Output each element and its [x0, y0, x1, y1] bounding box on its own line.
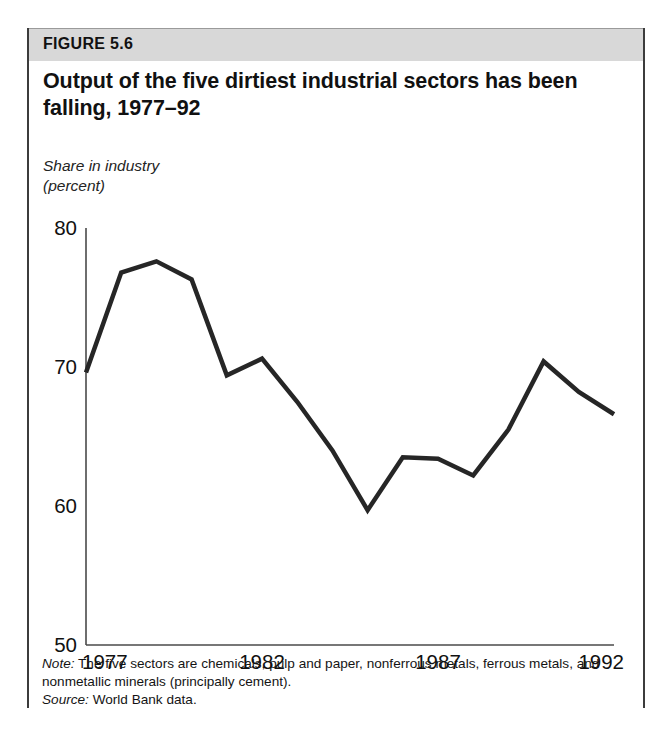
y-axis-tick-label: 50: [54, 633, 77, 656]
source-lead-label: Source:: [42, 692, 89, 707]
y-axis-tick-label: 60: [54, 494, 77, 517]
figure-frame: FIGURE 5.6 Output of the five dirtiest i…: [27, 28, 645, 708]
chart-plot-area: 506070801977198219871992: [29, 28, 647, 708]
y-axis-tick-label: 80: [54, 216, 77, 239]
note-lead-label: Note:: [42, 656, 75, 671]
note-body-text: The five sectors are chemicals, pulp and…: [42, 656, 599, 689]
figure-footnotes: Note: The five sectors are chemicals, pu…: [42, 655, 634, 709]
figure-note: Note: The five sectors are chemicals, pu…: [42, 655, 634, 691]
y-axis-tick-label: 70: [54, 355, 77, 378]
data-series-line: [86, 261, 614, 510]
figure-source: Source: World Bank data.: [42, 691, 634, 709]
source-body-text: World Bank data.: [89, 692, 197, 707]
line-chart-svg: 506070801977198219871992: [29, 28, 647, 708]
